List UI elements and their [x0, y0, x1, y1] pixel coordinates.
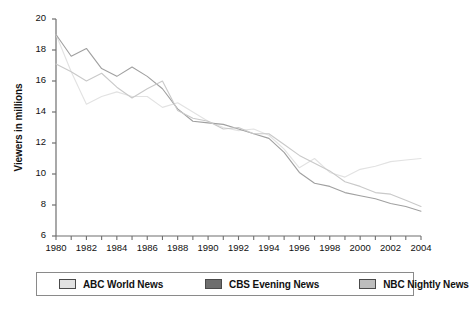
series-line-abc: [56, 35, 421, 178]
x-tick-label: 2004: [404, 242, 438, 253]
y-tick-label: 16: [26, 74, 46, 85]
x-tick-label: 1990: [191, 242, 225, 253]
x-tick-label: 1982: [69, 242, 103, 253]
legend-swatch-cbs-icon: [205, 279, 222, 289]
y-tick-label: 10: [26, 167, 46, 178]
x-tick-label: 1986: [130, 242, 164, 253]
y-tick-label: 20: [26, 12, 46, 23]
legend-item-cbs[interactable]: CBS Evening News: [205, 273, 319, 295]
y-tick-label: 12: [26, 136, 46, 147]
legend-label-nbc: NBC Nightly News: [383, 279, 469, 290]
y-tick-label: 8: [26, 198, 46, 209]
x-tick-label: 1984: [100, 242, 134, 253]
legend-swatch-abc-icon: [59, 279, 76, 289]
chart-legend: ABC World News CBS Evening News NBC Nigh…: [36, 272, 414, 296]
x-tick-label: 1998: [313, 242, 347, 253]
y-tick-label: 14: [26, 105, 46, 116]
x-tick-label: 1994: [252, 242, 286, 253]
x-tick-label: 1996: [282, 242, 316, 253]
legend-label-cbs: CBS Evening News: [229, 279, 319, 290]
x-tick-label: 1992: [222, 242, 256, 253]
y-tick-label: 18: [26, 43, 46, 54]
series-line-nbc: [56, 64, 421, 207]
series-line-cbs: [56, 35, 421, 212]
x-tick-label: 2002: [374, 242, 408, 253]
legend-item-abc[interactable]: ABC World News: [59, 273, 163, 295]
x-tick-label: 1988: [161, 242, 195, 253]
legend-label-abc: ABC World News: [83, 279, 163, 290]
y-tick-label: 6: [26, 229, 46, 240]
x-tick-label: 2000: [343, 242, 377, 253]
legend-item-nbc[interactable]: NBC Nightly News: [359, 273, 469, 295]
x-tick-label: 1980: [39, 242, 73, 253]
legend-swatch-nbc-icon: [359, 279, 376, 289]
